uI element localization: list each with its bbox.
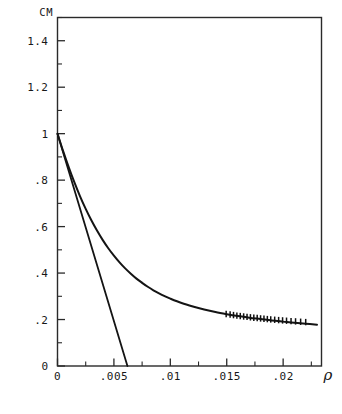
y-tick-label: .6 bbox=[34, 221, 48, 234]
y-tick-label: 1.4 bbox=[27, 35, 48, 48]
y-tick-label: 0 bbox=[41, 360, 48, 373]
y-tick-label: 1 bbox=[41, 128, 48, 141]
chart-figure: 0.2.4.6.811.21.4 0.005.01.015.02 CM ρ bbox=[0, 0, 342, 414]
chart-background bbox=[0, 0, 342, 414]
y-tick-label: .8 bbox=[34, 174, 48, 187]
y-tick-label: 1.2 bbox=[27, 81, 48, 94]
y-tick-label: .2 bbox=[34, 314, 48, 327]
x-tick-label: .02 bbox=[272, 370, 293, 383]
x-tick-label: .005 bbox=[100, 370, 129, 383]
x-axis-title: ρ bbox=[323, 366, 333, 384]
y-axis-title: CM bbox=[39, 6, 53, 18]
x-tick-label: 0 bbox=[54, 370, 61, 383]
x-tick-label: .015 bbox=[212, 370, 241, 383]
x-tick-label: .01 bbox=[160, 370, 181, 383]
chart-svg: 0.2.4.6.811.21.4 0.005.01.015.02 CM ρ bbox=[0, 0, 342, 414]
y-tick-label: .4 bbox=[34, 267, 48, 280]
